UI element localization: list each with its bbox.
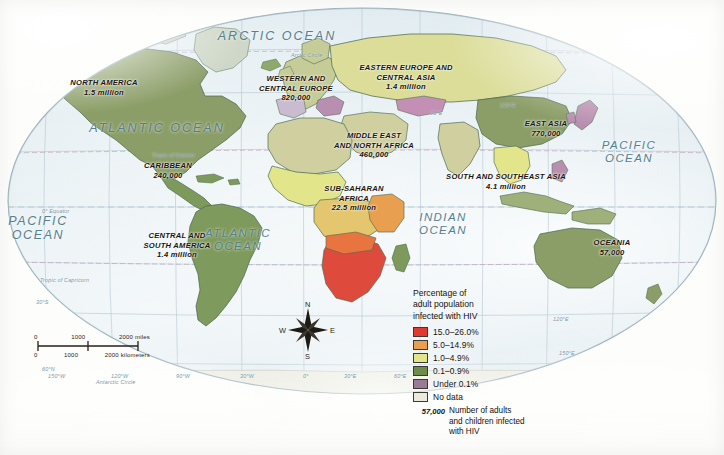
region-label-eastern-europe-central-asia: EASTERN EUROPE AND CENTRAL ASIA1.4 milli…	[359, 63, 452, 92]
land-india	[438, 122, 480, 176]
legend-swatch-class-15-26	[413, 327, 428, 337]
scale-km-tick-2: 2000 kilometers	[105, 352, 150, 358]
region-label-sub-saharan-africa: SUB-SAHARAN AFRICA22.5 million	[324, 184, 383, 213]
scale-bar-graphic	[34, 340, 150, 352]
compass-west-label: W	[279, 326, 286, 335]
graticule-label-lon-30e: 30°E	[344, 373, 357, 379]
legend-swatch-class-no-data	[413, 392, 428, 402]
region-value-south-southeast-asia: 4.1 million	[446, 182, 566, 192]
legend-label-class-1-4: 1.0–4.9%	[433, 353, 469, 363]
land-caribbean-islands	[196, 174, 240, 185]
region-title-south-southeast-asia: SOUTH AND SOUTHEAST ASIA	[446, 172, 566, 182]
graticule-label-lon-120e-top: 120°E	[500, 102, 516, 108]
ocean-label-indian-ocean: INDIAN OCEAN	[419, 211, 467, 237]
region-value-east-asia: 770,000	[525, 129, 567, 139]
compass-south-label: S	[305, 352, 310, 361]
legend-label-class-0.1-0.9: 0.1–0.9%	[433, 366, 469, 376]
region-title-north-america: NORTH AMERICA	[70, 78, 137, 88]
legend-row-class-under-0.1: Under 0.1%	[413, 377, 565, 390]
scale-bar: 010002000 miles 010002000 kilometers	[34, 334, 150, 358]
region-value-north-america: 1.5 million	[70, 88, 137, 98]
scale-km-tick-0: 0	[34, 352, 38, 358]
graticule-label-lon-0: 0°	[303, 373, 309, 379]
region-label-western-central-europe: WESTERN AND CENTRAL EUROPE820,000	[259, 74, 333, 103]
region-title-oceania: OCEANIA	[594, 238, 631, 248]
region-value-caribbean: 240,000	[144, 171, 192, 181]
scale-miles-tick-1: 1000	[71, 334, 85, 340]
legend-label-class-under-0.1: Under 0.1%	[433, 379, 478, 389]
ocean-label-pacific-ocean-west: PACIFIC OCEAN	[8, 214, 68, 243]
region-value-oceania: 57,000	[594, 248, 631, 258]
legend-row-class-15-26: 15.0–26.0%	[413, 325, 565, 338]
graticule-label-lon-150w: 150°W	[48, 373, 65, 379]
legend-row-class-5-14: 5.0–14.9%	[413, 338, 565, 351]
compass-north-label: N	[305, 300, 310, 309]
graticule-label-antarctic-circle: Antarctic Circle	[96, 379, 135, 385]
map-legend: Percentage of adult population infected …	[413, 288, 565, 438]
legend-note-text: Number of adults and children infected w…	[449, 406, 525, 438]
region-title-caribbean: CARIBBEAN	[144, 161, 192, 171]
ocean-label-arctic-ocean: ARCTIC OCEAN	[218, 29, 336, 43]
land-korea	[566, 112, 576, 124]
land-alaska	[26, 50, 70, 76]
graticule-label-lon-120w: 120°W	[111, 373, 128, 379]
graticule-label-equator-west: 0° Equator	[42, 208, 70, 214]
ocean-label-atlantic-ocean-south: ATLANTIC OCEAN	[205, 227, 271, 253]
region-title-eastern-europe-central-asia: EASTERN EUROPE AND CENTRAL ASIA	[359, 63, 452, 82]
legend-number-note: 57,000 Number of adults and children inf…	[413, 406, 565, 438]
ocean-label-atlantic-ocean-north: ATLANTIC OCEAN	[89, 121, 224, 135]
world-hiv-map: ARCTIC OCEANATLANTIC OCEANPACIFIC OCEANA…	[0, 0, 724, 455]
region-value-western-central-europe: 820,000	[259, 94, 333, 104]
land-new-guinea	[572, 208, 616, 224]
legend-title: Percentage of adult population infected …	[413, 288, 565, 322]
region-label-south-southeast-asia: SOUTH AND SOUTHEAST ASIA4.1 million	[446, 172, 566, 191]
graticule-label-lat-30s: 30°S	[36, 299, 49, 305]
compass-east-label: E	[330, 326, 335, 335]
region-label-oceania: OCEANIA57,000	[594, 238, 631, 257]
scale-km-tick-1: 1000	[64, 352, 78, 358]
legend-note-key: 57,000	[413, 406, 449, 438]
region-label-middle-east-north-africa: MIDDLE EAST AND NORTH AFRICA460,000	[334, 131, 414, 160]
land-madagascar	[392, 244, 410, 272]
scale-miles-tick-2: 2000 miles	[119, 334, 150, 340]
scale-miles-tick-0: 0	[34, 334, 38, 340]
ocean-label-pacific-ocean-east: PACIFIC OCEAN	[602, 139, 656, 165]
legend-swatch-class-5-14	[413, 340, 428, 350]
graticule-label-arctic-circle-top: Arctic Circle	[291, 52, 322, 58]
land-indonesia	[500, 192, 574, 214]
region-title-sub-saharan-africa: SUB-SAHARAN AFRICA	[324, 184, 383, 203]
land-australia	[534, 228, 622, 288]
graticule-label-lon-60e: 60°E	[394, 373, 407, 379]
legend-swatch-class-under-0.1	[413, 379, 428, 389]
land-arctic-islands	[120, 24, 186, 44]
region-label-caribbean: CARIBBEAN240,000	[144, 161, 192, 180]
region-title-east-asia: EAST ASIA	[525, 119, 567, 129]
legend-row-class-no-data: No data	[413, 390, 565, 403]
legend-class-list: 15.0–26.0%5.0–14.9%1.0–4.9%0.1–0.9%Under…	[413, 325, 565, 403]
legend-label-class-15-26: 15.0–26.0%	[433, 327, 479, 337]
land-iceland	[261, 59, 281, 71]
region-title-central-south-america: CENTRAL AND SOUTH AMERICA	[143, 231, 210, 250]
compass-rose: N E S W	[276, 292, 340, 364]
region-value-middle-east-north-africa: 460,000	[334, 151, 414, 161]
graticule-label-tropic-of-cancer: Tropic of Cancer	[152, 152, 195, 158]
land-new-zealand	[646, 284, 662, 304]
region-label-central-south-america: CENTRAL AND SOUTH AMERICA1.4 million	[143, 231, 210, 260]
legend-swatch-class-0.1-0.9	[413, 366, 428, 376]
graticule-label-lon-90e-top: 90°E	[430, 110, 443, 116]
region-title-middle-east-north-africa: MIDDLE EAST AND NORTH AFRICA	[334, 131, 414, 150]
region-title-western-central-europe: WESTERN AND CENTRAL EUROPE	[259, 74, 333, 93]
graticule-label-lon-90w: 90°W	[176, 373, 190, 379]
legend-row-class-0.1-0.9: 0.1–0.9%	[413, 364, 565, 377]
region-value-eastern-europe-central-asia: 1.4 million	[359, 83, 452, 93]
graticule-label-tropic-of-capricorn: Tropic of Capricorn	[40, 277, 89, 283]
land-japan	[574, 100, 598, 130]
graticule-label-lon-30w: 30°W	[240, 373, 254, 379]
legend-label-class-no-data: No data	[433, 392, 463, 402]
region-value-sub-saharan-africa: 22.5 million	[324, 204, 383, 214]
graticule-label-lat-60n: 60°N	[42, 366, 55, 372]
legend-label-class-5-14: 5.0–14.9%	[433, 340, 474, 350]
scale-kilometers-labels: 010002000 kilometers	[34, 352, 150, 358]
legend-row-class-1-4: 1.0–4.9%	[413, 351, 565, 364]
region-value-central-south-america: 1.4 million	[143, 251, 210, 261]
